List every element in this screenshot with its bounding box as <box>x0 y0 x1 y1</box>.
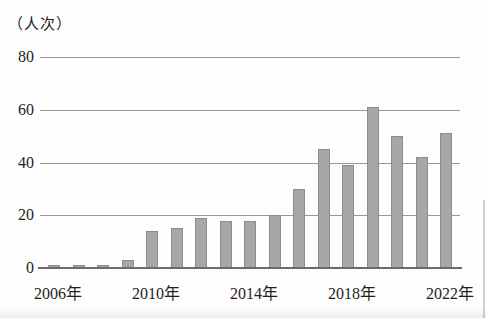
gridline-60 <box>40 110 460 111</box>
bar-2014 <box>244 221 256 268</box>
y-tick-label-0: 0 <box>2 259 34 277</box>
scan-edge-artifact <box>483 200 485 318</box>
y-axis-unit-label: （人次） <box>8 12 72 33</box>
bar-2011 <box>171 228 183 268</box>
bar-2012 <box>195 218 207 268</box>
y-tick-label-80: 80 <box>2 48 34 66</box>
bar-2019 <box>367 107 379 268</box>
x-tick-label-2006: 2006年 <box>34 280 82 304</box>
y-tick-label-20: 20 <box>2 206 34 224</box>
bar-2022 <box>440 133 452 268</box>
bar-2016 <box>293 189 305 268</box>
bar-2018 <box>342 165 354 268</box>
scan-shadow-artifact <box>0 308 486 318</box>
bar-chart-figure: （人次） 0204060802006年2010年2014年2018年2022年 <box>0 0 486 318</box>
y-tick-label-40: 40 <box>2 154 34 172</box>
y-tick-label-60: 60 <box>2 101 34 119</box>
x-tick-label-2014: 2014年 <box>230 280 278 304</box>
gridline-80 <box>40 57 460 58</box>
plot-area <box>40 57 460 268</box>
bar-2017 <box>318 149 330 268</box>
bar-2015 <box>269 215 281 268</box>
bar-2013 <box>220 221 232 268</box>
bar-2020 <box>391 136 403 268</box>
x-axis-line <box>38 267 462 269</box>
bar-2021 <box>416 157 428 268</box>
bar-2010 <box>146 231 158 268</box>
x-tick-label-2010: 2010年 <box>132 280 180 304</box>
x-tick-label-2018: 2018年 <box>328 280 376 304</box>
x-tick-label-2022: 2022年 <box>426 280 474 304</box>
